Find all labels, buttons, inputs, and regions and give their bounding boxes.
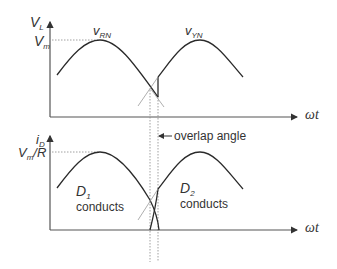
vrn-label: vRN — [93, 24, 111, 40]
top-plot — [50, 22, 297, 117]
d2-conducts-label: conducts — [180, 198, 228, 210]
id2-curve — [150, 152, 243, 230]
d1-label: D1 — [76, 184, 91, 201]
d2-label: D2 — [180, 181, 195, 198]
bottom-x-axis-label: ωt — [305, 221, 319, 235]
d1-conducts-label: conducts — [76, 201, 124, 213]
vm-over-r-label: Vm/R — [18, 146, 46, 162]
id1-curve — [57, 152, 159, 230]
vyn-label: vYN — [185, 24, 203, 40]
bottom-plot — [50, 136, 297, 230]
overlap-angle-label: overlap angle — [174, 130, 246, 142]
vyn-extension — [138, 77, 158, 106]
waveform-diagram — [0, 0, 337, 269]
top-x-axis-label: ωt — [305, 108, 319, 122]
top-y-axis-label: VL — [30, 15, 44, 32]
vyn-curve — [158, 40, 243, 77]
vrn-extension — [150, 88, 164, 107]
vm-label: Vm — [34, 34, 50, 51]
vrn-curve — [57, 40, 158, 97]
